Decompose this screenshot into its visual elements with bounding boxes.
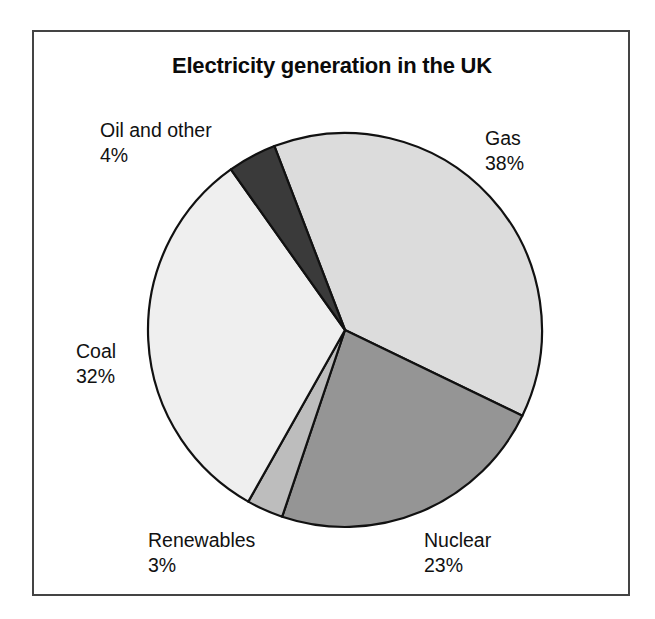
slice-label-coal-name: Coal — [76, 340, 116, 362]
slice-label-nuclear: Nuclear 23% — [424, 528, 491, 578]
slice-label-coal-percent: 32% — [76, 364, 116, 389]
slice-label-renewables: Renewables 3% — [148, 528, 255, 578]
slice-label-renewables-name: Renewables — [148, 529, 255, 551]
slice-label-coal: Coal 32% — [76, 339, 116, 389]
slice-label-renewables-percent: 3% — [148, 553, 255, 578]
slice-label-oil-and-other: Oil and other 4% — [100, 118, 212, 168]
slice-label-oil-and-other-percent: 4% — [100, 143, 212, 168]
slice-label-gas: Gas 38% — [485, 126, 524, 176]
slice-label-gas-percent: 38% — [485, 151, 524, 176]
pie-chart-graphic — [0, 0, 655, 619]
slice-label-gas-name: Gas — [485, 127, 521, 149]
slice-label-oil-and-other-name: Oil and other — [100, 119, 212, 141]
slice-label-nuclear-percent: 23% — [424, 553, 491, 578]
slice-label-nuclear-name: Nuclear — [424, 529, 491, 551]
pie-slices-group — [148, 133, 542, 527]
pie-chart-figure: Electricity generation in the UK Oil and… — [0, 0, 655, 619]
